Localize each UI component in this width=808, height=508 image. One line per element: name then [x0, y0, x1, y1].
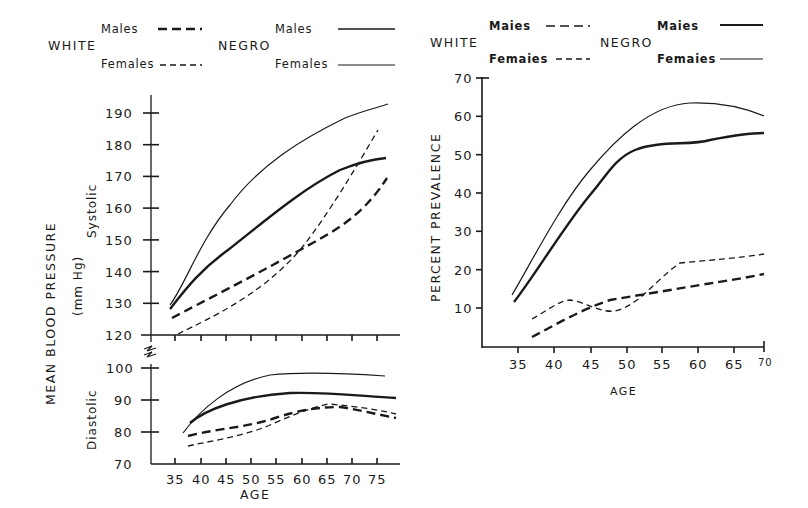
- legend-white-label: WHITE: [48, 38, 96, 53]
- right-chart: 70 60 50 40 30 20 10 35 40 45 50 55 60 6…: [428, 71, 773, 398]
- diastolic-label: Diastolic: [85, 390, 99, 451]
- prevalence-negro-females-line: [512, 103, 764, 295]
- right-legend-white-females-label: Femaies: [489, 52, 548, 66]
- right-legend-negro-males-label: Maies: [657, 19, 699, 33]
- prevalence-x-tick-labels: 35 40 45 50 55 60 65 70: [509, 357, 773, 372]
- left-x-axis-label: AGE: [240, 487, 270, 502]
- svg-text:75: 75: [368, 472, 387, 487]
- prevalence-white-males-line: [532, 274, 764, 337]
- legend-white-males-label: Males: [101, 22, 138, 36]
- systolic-x-ticks: [175, 335, 377, 341]
- right-legend-white-males-label: Maies: [489, 19, 531, 33]
- svg-text:160: 160: [105, 201, 133, 216]
- svg-text:30: 30: [454, 224, 473, 239]
- left-y-axis-unit: (mm Hg): [71, 256, 85, 316]
- prevalence-white-females-line: [532, 254, 764, 319]
- svg-text:90: 90: [114, 393, 133, 408]
- svg-text:20: 20: [454, 263, 473, 278]
- diastolic-series: [183, 373, 396, 446]
- prevalence-y-axis-label: PERCENT PREVALENCE: [428, 133, 443, 302]
- svg-text:100: 100: [106, 361, 134, 376]
- prevalence-series: [512, 103, 764, 337]
- svg-text:50: 50: [618, 357, 637, 372]
- diastolic-x-ticks: [175, 458, 377, 464]
- left-legend: Males WHITE Females Males NEGRO Females: [48, 22, 395, 71]
- prevalence-negro-males-line: [514, 133, 764, 302]
- prevalence-x-ticks: [518, 347, 734, 353]
- svg-text:60: 60: [454, 109, 473, 124]
- left-x-tick-labels: 35 40 45 50 55 60 65 70 75: [166, 472, 387, 487]
- svg-text:45: 45: [582, 357, 601, 372]
- systolic-series: [170, 104, 388, 334]
- legend-negro-label: NEGRO: [218, 38, 271, 53]
- legend-negro-males-label: Males: [275, 22, 312, 36]
- systolic-negro-females-line: [170, 104, 388, 305]
- diastolic-negro-females-line: [183, 373, 385, 433]
- right-legend: Maies WHITE Femaies Maies NEGRO Femaies: [430, 19, 763, 66]
- svg-text:60: 60: [293, 472, 312, 487]
- svg-text:70: 70: [758, 357, 773, 368]
- systolic-white-females-line: [178, 130, 378, 334]
- svg-text:65: 65: [318, 472, 337, 487]
- svg-text:35: 35: [509, 357, 528, 372]
- svg-text:55: 55: [267, 472, 286, 487]
- svg-text:70: 70: [343, 472, 362, 487]
- svg-text:40: 40: [192, 472, 211, 487]
- figure: Males WHITE Females Males NEGRO Females …: [0, 0, 808, 508]
- svg-text:40: 40: [545, 357, 564, 372]
- svg-text:50: 50: [242, 472, 261, 487]
- svg-text:50: 50: [454, 148, 473, 163]
- svg-text:65: 65: [725, 357, 744, 372]
- diastolic-white-males-line: [188, 407, 396, 436]
- svg-text:130: 130: [105, 296, 133, 311]
- svg-text:180: 180: [105, 138, 133, 153]
- svg-text:60: 60: [689, 357, 708, 372]
- svg-text:120: 120: [105, 328, 133, 343]
- diastolic-white-females-line: [188, 404, 396, 446]
- svg-text:70: 70: [454, 71, 473, 86]
- svg-text:40: 40: [454, 186, 473, 201]
- systolic-negro-males-line: [170, 158, 386, 309]
- svg-text:45: 45: [217, 472, 236, 487]
- axis-break-icon: [144, 346, 156, 357]
- svg-text:190: 190: [105, 106, 133, 121]
- legend-white-females-label: Females: [101, 57, 154, 71]
- right-legend-negro-label: NEGRO: [600, 35, 653, 50]
- svg-text:140: 140: [105, 265, 133, 280]
- legend-negro-females-label: Females: [275, 57, 328, 71]
- systolic-y-tick-labels: 190 180 170 160 150 140 130 120: [105, 106, 133, 343]
- svg-text:170: 170: [105, 169, 133, 184]
- svg-text:70: 70: [114, 457, 133, 472]
- prevalence-x-axis-label: AGE: [610, 385, 637, 398]
- systolic-label: Systolic: [85, 184, 99, 238]
- svg-text:150: 150: [105, 233, 133, 248]
- svg-text:55: 55: [653, 357, 672, 372]
- svg-text:35: 35: [166, 472, 185, 487]
- diastolic-y-tick-labels: 100 90 80 70: [106, 361, 134, 472]
- right-legend-negro-females-label: Femaies: [657, 52, 716, 66]
- diastolic-y-ticks: [141, 368, 159, 432]
- systolic-white-males-line: [172, 178, 387, 318]
- svg-text:10: 10: [454, 301, 473, 316]
- left-y-axis-label: MEAN BLOOD PRESSURE: [43, 222, 58, 405]
- left-chart: 190 180 170 160 150 140 130 120: [43, 95, 400, 502]
- svg-text:80: 80: [114, 425, 133, 440]
- right-legend-white-label: WHITE: [430, 35, 478, 50]
- prevalence-y-tick-labels: 70 60 50 40 30 20 10: [454, 71, 473, 316]
